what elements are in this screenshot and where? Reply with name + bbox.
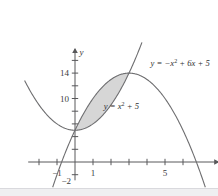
y-axis-arrow-icon xyxy=(72,48,78,53)
x-tick-label: 5 xyxy=(163,168,168,178)
graph-plot: −115 −21014 x y y = −x2 + 6x + 5 y = x2 … xyxy=(0,0,218,196)
equation-label-lower-curve: y = x2 + 5 xyxy=(103,101,140,111)
bottom-border-band xyxy=(0,188,218,196)
y-tick-label: −2 xyxy=(61,176,71,186)
eq-upper-suffix: + 6x + 5 xyxy=(177,58,210,68)
y-axis-label: y xyxy=(79,47,84,57)
eq-lower-suffix: + 5 xyxy=(125,101,140,111)
x-tick-label: −1 xyxy=(52,168,62,178)
y-tick-label: 14 xyxy=(60,68,70,78)
equation-label-upper-curve: y = −x2 + 6x + 5 xyxy=(150,58,211,68)
eq-upper-prefix: y = −x xyxy=(150,58,175,68)
x-tick-label: 1 xyxy=(91,168,96,178)
figure-container: −115 −21014 x y y = −x2 + 6x + 5 y = x2 … xyxy=(0,0,218,196)
eq-lower-prefix: y = x xyxy=(103,101,122,111)
y-tick-label: 10 xyxy=(60,94,70,104)
x-axis-arrow-icon xyxy=(214,159,218,165)
